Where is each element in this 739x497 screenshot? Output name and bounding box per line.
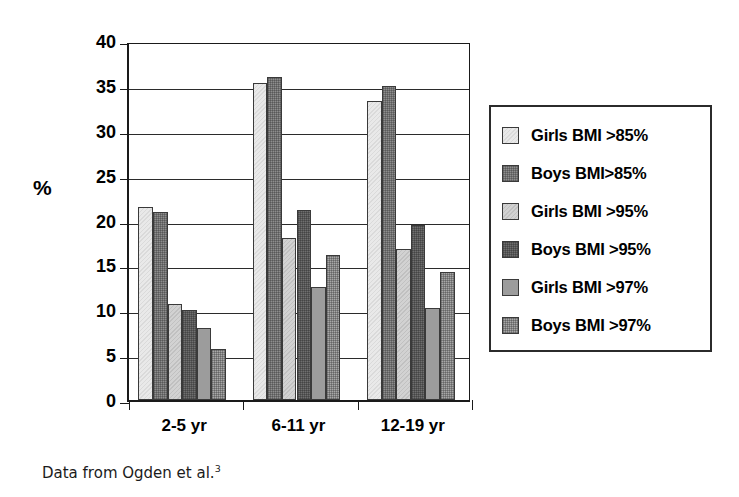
bar-6-11yr-s1 — [267, 77, 282, 400]
bar-6-11yr-s4 — [311, 287, 326, 400]
bar-12-19yr-s2 — [396, 249, 411, 400]
legend-item[interactable]: Boys BMI >97% — [491, 306, 710, 344]
x-category-label: 12-19 yr — [356, 416, 470, 436]
y-tick-label: 20 — [76, 213, 116, 231]
y-tickmark — [120, 224, 129, 225]
x-tickmark — [358, 400, 359, 410]
bar-2-5yr-s0 — [138, 207, 153, 400]
legend-swatch-icon — [502, 127, 519, 144]
legend-item[interactable]: Girls BMI >95% — [491, 192, 710, 230]
y-tickmark — [120, 313, 129, 314]
chart-legend: Girls BMI >85%Boys BMI>85%Girls BMI >95%… — [489, 105, 712, 352]
legend-swatch-icon — [502, 317, 519, 334]
legend-item-label: Girls BMI >97% — [531, 278, 648, 297]
y-tickmark — [120, 403, 129, 404]
y-tick-label: 30 — [76, 123, 116, 141]
legend-item-label: Girls BMI >95% — [531, 202, 648, 221]
y-tickmark — [120, 89, 129, 90]
legend-item-label: Boys BMI >97% — [531, 316, 651, 335]
legend-item[interactable]: Boys BMI>85% — [491, 154, 710, 192]
legend-swatch-icon — [502, 203, 519, 220]
y-tick-label: 15 — [76, 257, 116, 275]
bar-chart-figure: % 4035302520151050 2-5 yr6-11 yr12-19 yr… — [0, 0, 739, 497]
bar-12-19yr-s5 — [440, 272, 455, 400]
bar-2-5yr-s2 — [168, 304, 183, 400]
y-tick-label: 10 — [76, 302, 116, 320]
x-category-label: 2-5 yr — [127, 416, 241, 436]
legend-item-label: Girls BMI >85% — [531, 126, 648, 145]
x-category-label: 6-11 yr — [241, 416, 355, 436]
bar-12-19yr-s0 — [367, 101, 382, 400]
bar-12-19yr-s1 — [382, 86, 397, 400]
bar-6-11yr-s0 — [253, 83, 268, 400]
bar-2-5yr-s3 — [182, 310, 197, 400]
legend-item-label: Boys BMI >95% — [531, 240, 651, 259]
y-tick-label: 5 — [76, 347, 116, 365]
y-tickmark — [120, 358, 129, 359]
legend-swatch-icon — [502, 165, 519, 182]
legend-item-label: Boys BMI>85% — [531, 164, 646, 183]
legend-swatch-icon — [502, 279, 519, 296]
bar-2-5yr-s1 — [153, 212, 168, 400]
y-tickmark — [120, 44, 129, 45]
plot-area — [127, 43, 470, 402]
legend-item[interactable]: Boys BMI >95% — [491, 230, 710, 268]
bar-2-5yr-s4 — [197, 328, 212, 400]
bar-series-container — [129, 44, 469, 400]
caption-text: Data from Ogden et al. — [42, 464, 215, 482]
y-axis-tick-labels: 4035302520151050 — [72, 0, 116, 497]
y-tick-label: 25 — [76, 168, 116, 186]
y-tick-label: 0 — [76, 392, 116, 410]
y-tickmark — [120, 134, 129, 135]
bar-12-19yr-s4 — [425, 308, 440, 400]
y-tick-label: 35 — [76, 78, 116, 96]
x-tickmark — [129, 400, 130, 410]
legend-swatch-icon — [502, 241, 519, 258]
y-tickmark — [120, 179, 129, 180]
bar-6-11yr-s3 — [297, 210, 312, 400]
bar-6-11yr-s5 — [326, 255, 341, 400]
bar-6-11yr-s2 — [282, 238, 297, 400]
x-tickmark — [243, 400, 244, 410]
x-tickmark — [472, 400, 473, 410]
legend-item[interactable]: Girls BMI >97% — [491, 268, 710, 306]
figure-caption: Data from Ogden et al.3 — [42, 463, 221, 482]
bar-2-5yr-s5 — [211, 349, 226, 400]
bar-12-19yr-s3 — [411, 225, 426, 400]
y-axis-label: % — [33, 176, 52, 200]
legend-item[interactable]: Girls BMI >85% — [491, 116, 710, 154]
caption-superscript: 3 — [215, 463, 221, 474]
y-tick-label: 40 — [76, 33, 116, 51]
y-tickmark — [120, 268, 129, 269]
